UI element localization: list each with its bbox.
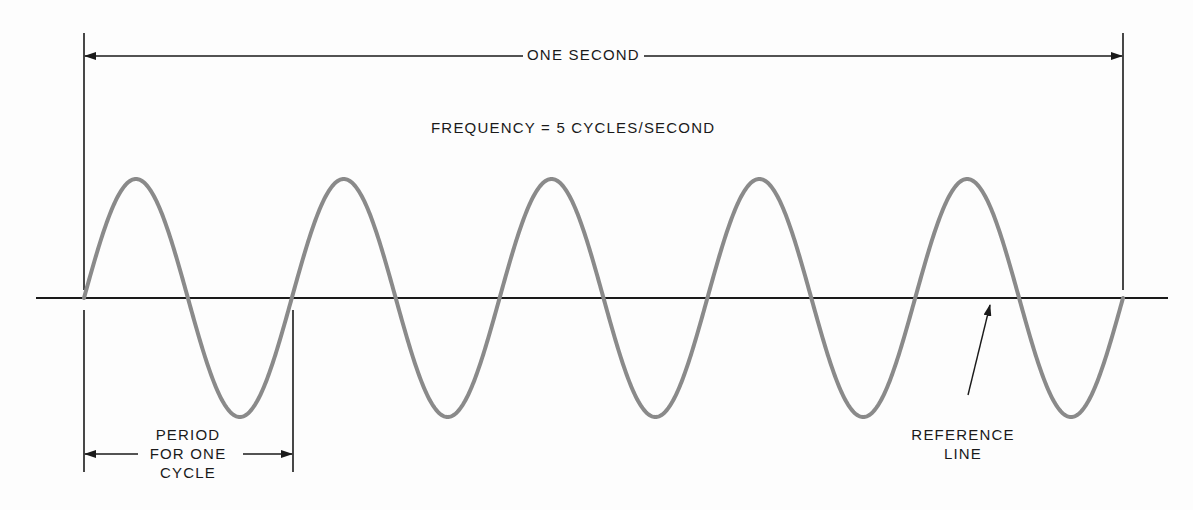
period-label: PERIOD FOR ONE CYCLE: [138, 425, 238, 482]
reference-label-line-2: LINE: [893, 444, 1033, 463]
reference-label-line-1: REFERENCE: [893, 425, 1033, 444]
frequency-label: FREQUENCY = 5 CYCLES/SECOND: [431, 119, 715, 136]
period-label-line-2: FOR ONE: [138, 444, 238, 463]
reference-pointer-arrow: [968, 305, 990, 395]
reference-line-label: REFERENCE LINE: [893, 425, 1033, 463]
period-label-line-3: CYCLE: [138, 463, 238, 482]
period-label-line-1: PERIOD: [138, 425, 238, 444]
one-second-bracket: [84, 33, 1123, 290]
one-second-label: ONE SECOND: [523, 46, 644, 63]
